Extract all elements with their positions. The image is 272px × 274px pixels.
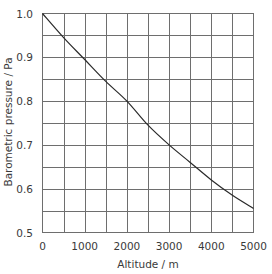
x-axis-ticks: 010002000300040005000 [39, 240, 267, 252]
x-axis-label: Altitude / m [117, 258, 178, 270]
x-tick-label: 3000 [156, 240, 183, 252]
y-axis-ticks: 0.50.60.70.80.91.0 [16, 8, 33, 239]
grid-lines [43, 14, 254, 233]
x-tick-label: 4000 [198, 240, 225, 252]
x-tick-label: 5000 [240, 240, 267, 252]
x-tick-label: 0 [39, 240, 46, 252]
y-axis-label: Barometric pressure / Pa [2, 57, 14, 186]
y-tick-label: 0.6 [16, 183, 33, 195]
barometric-pressure-chart: 010002000300040005000 0.50.60.70.80.91.0… [0, 0, 272, 274]
y-tick-label: 1.0 [16, 8, 33, 20]
y-tick-label: 0.5 [16, 227, 33, 239]
x-tick-label: 2000 [114, 240, 141, 252]
y-tick-label: 0.8 [16, 95, 33, 107]
y-tick-label: 0.7 [16, 139, 33, 151]
x-tick-label: 1000 [71, 240, 98, 252]
y-tick-label: 0.9 [16, 51, 33, 63]
